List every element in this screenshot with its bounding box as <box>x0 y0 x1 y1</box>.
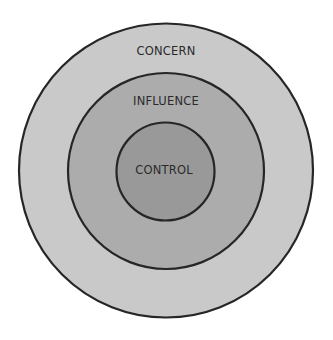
label-influence: INFLUENCE <box>133 94 199 108</box>
label-control: CONTROL <box>135 163 193 177</box>
circles-diagram: CONCERN INFLUENCE CONTROL <box>0 0 333 340</box>
label-concern: CONCERN <box>137 44 196 58</box>
